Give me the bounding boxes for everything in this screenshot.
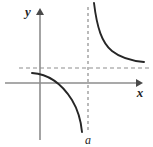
y-axis-arrow-icon (36, 8, 44, 15)
vertical-asymptote-label: a (85, 133, 91, 147)
function-graph: y x a (0, 0, 153, 147)
curve-upper-right-branch (94, 3, 144, 62)
figure-container: y x a (0, 0, 153, 147)
x-axis-label: x (136, 85, 144, 100)
y-axis-label: y (23, 4, 31, 19)
